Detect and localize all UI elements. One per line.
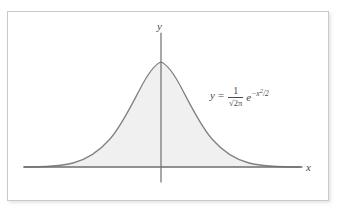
equation-exp-divisor: /2: [263, 89, 269, 98]
figure-root: y x y=1√2πe−x2/2: [0, 0, 339, 214]
equation-radicand: 2π: [234, 98, 243, 108]
equation-exponent: −x2/2: [251, 89, 269, 98]
curve-fill: [24, 62, 300, 167]
equation-lhs: y: [210, 89, 215, 101]
equation-denominator: √2π: [228, 99, 243, 108]
x-axis-label: x: [306, 161, 311, 173]
equation-numerator: 1: [228, 86, 243, 97]
equation-fraction: 1√2π: [228, 86, 243, 107]
equation-annotation: y=1√2πe−x2/2: [210, 86, 269, 107]
gaussian-plot: [0, 0, 339, 214]
y-axis-label: y: [157, 20, 162, 32]
equation-exponential-term: e−x2/2: [246, 91, 268, 103]
equation-equals-sign: =: [218, 89, 224, 101]
